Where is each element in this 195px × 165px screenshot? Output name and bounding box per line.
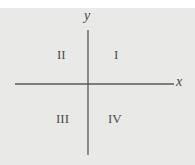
coordinate-axes: [0, 0, 195, 165]
y-axis-label: y: [84, 8, 90, 24]
quadrant-label-IV: IV: [108, 111, 122, 127]
quadrant-label-I: I: [114, 47, 118, 63]
quadrant-label-III: III: [56, 111, 69, 127]
quadrant-label-II: II: [57, 47, 66, 63]
x-axis-label: x: [176, 74, 182, 90]
